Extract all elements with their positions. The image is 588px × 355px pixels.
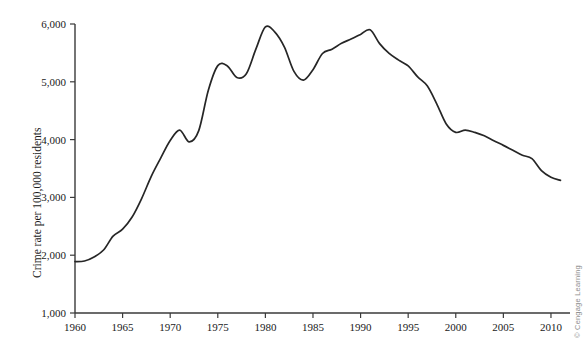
y-tick-label: 1,000 <box>41 307 66 319</box>
x-tick-label: 1960 <box>64 321 87 333</box>
x-tick-label: 1990 <box>350 321 373 333</box>
crime-rate-chart-figure: 1,0002,0003,0004,0005,0006,000 196019651… <box>0 0 588 355</box>
x-tick-label: 1970 <box>159 321 182 333</box>
x-tick-label: 1975 <box>207 321 230 333</box>
y-axis-label: Crime rate per 100,000 residents <box>31 128 43 278</box>
y-tick-label: 3,000 <box>41 191 66 203</box>
y-axis-tick-group: 1,0002,0003,0004,0005,0006,000 <box>41 18 75 319</box>
x-tick-label: 1995 <box>397 321 420 333</box>
x-tick-label: 1980 <box>254 321 277 333</box>
crime-rate-line-series <box>75 26 560 262</box>
y-tick-label: 6,000 <box>41 18 66 30</box>
y-tick-label: 5,000 <box>41 76 66 88</box>
chart-plot-area: 1,0002,0003,0004,0005,0006,000 196019651… <box>0 0 588 355</box>
copyright-credit: © Cengage Learning <box>573 265 582 338</box>
x-axis-tick-group: 1960196519701975198019851990199520002005… <box>64 313 562 333</box>
x-tick-label: 1965 <box>112 321 135 333</box>
y-tick-label: 4,000 <box>41 134 66 146</box>
x-tick-label: 2010 <box>540 321 563 333</box>
y-tick-label: 2,000 <box>41 249 66 261</box>
x-tick-label: 2000 <box>445 321 468 333</box>
x-tick-label: 2005 <box>492 321 515 333</box>
x-tick-label: 1985 <box>302 321 325 333</box>
